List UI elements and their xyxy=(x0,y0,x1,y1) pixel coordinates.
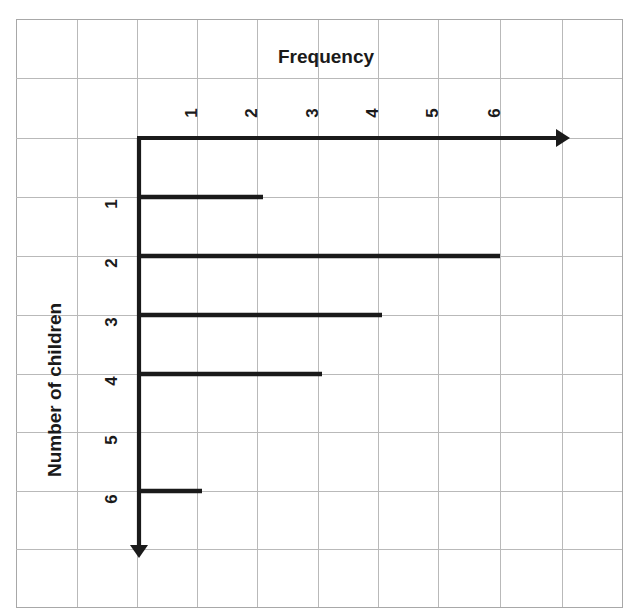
y-axis-title: Number of children xyxy=(44,303,65,477)
graph-paper-grid xyxy=(0,0,636,616)
y-tick-label: 6 xyxy=(102,494,121,503)
x-tick-label: 3 xyxy=(303,108,322,117)
x-tick-label: 5 xyxy=(423,108,442,117)
chart-page: 1 2 3 4 5 6 1 2 3 4 5 6 Frequency Number… xyxy=(0,0,636,616)
y-tick-label: 4 xyxy=(102,376,121,386)
x-axis-title: Frequency xyxy=(278,46,375,67)
x-tick-label: 6 xyxy=(485,108,504,117)
x-tick-label: 4 xyxy=(363,108,382,118)
y-tick-label: 2 xyxy=(102,258,121,267)
x-tick-label: 1 xyxy=(182,108,201,117)
y-tick-label: 1 xyxy=(102,199,121,208)
x-tick-label: 2 xyxy=(242,108,261,117)
y-tick-label: 5 xyxy=(102,435,121,444)
bar-chart: 1 2 3 4 5 6 1 2 3 4 5 6 Frequency Number… xyxy=(0,0,636,616)
y-tick-label: 3 xyxy=(102,317,121,326)
